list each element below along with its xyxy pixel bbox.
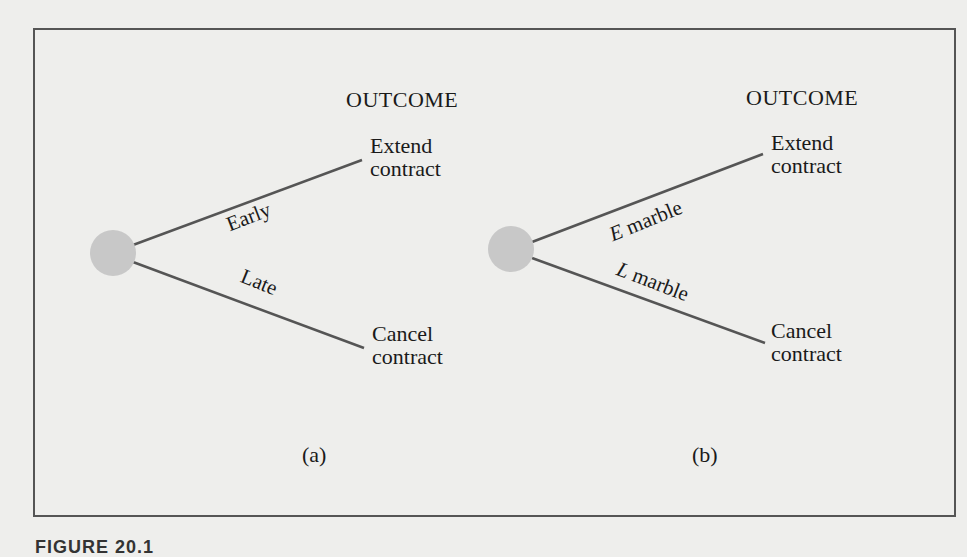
- outcome-extend-line2-a: contract: [370, 157, 441, 180]
- panel-label-a: (a): [302, 443, 326, 466]
- branch-line-early: [133, 160, 362, 245]
- outcome-extend-line1-a: Extend: [370, 134, 432, 157]
- outcome-cancel-line1-b: Cancel: [771, 319, 832, 342]
- outcome-header-a: OUTCOME: [346, 88, 458, 111]
- outcome-extend-line2-b: contract: [771, 154, 842, 177]
- outcome-header-b: OUTCOME: [746, 86, 858, 109]
- figure-caption: FIGURE 20.1: [35, 537, 154, 557]
- panel-label-b: (b): [692, 443, 718, 466]
- outcome-extend-line1-b: Extend: [771, 131, 833, 154]
- chance-node-a: [90, 230, 136, 276]
- outcome-cancel-line2-b: contract: [771, 342, 842, 365]
- outcome-cancel-line1-a: Cancel: [372, 322, 433, 345]
- outcome-cancel-line2-a: contract: [372, 345, 443, 368]
- chance-node-b: [488, 226, 534, 272]
